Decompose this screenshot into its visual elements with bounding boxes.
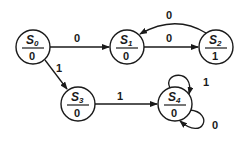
edge-label: 1 bbox=[203, 76, 209, 88]
edge-s1-s2: 0 bbox=[144, 32, 198, 47]
state-s1: S1 0 bbox=[110, 30, 144, 64]
state-output: 1 bbox=[212, 50, 218, 62]
edge-label: 1 bbox=[56, 62, 62, 74]
edge-label: 1 bbox=[117, 90, 123, 102]
state-diagram: 0 1 0 0 1 1 0 S0 0 S1 0 S2 1 bbox=[0, 0, 249, 156]
edge-label: 0 bbox=[74, 32, 80, 44]
edge-s0-s3: 1 bbox=[45, 60, 67, 89]
edge-s2-s1: 0 bbox=[140, 9, 206, 34]
edge-label: 0 bbox=[166, 32, 172, 44]
state-output: 0 bbox=[123, 50, 129, 62]
state-output: 0 bbox=[74, 107, 80, 119]
edge-s0-s1: 0 bbox=[50, 32, 109, 47]
edge-label: 0 bbox=[166, 9, 172, 21]
state-s3: S3 0 bbox=[61, 87, 95, 121]
edge-s3-s4: 1 bbox=[95, 90, 157, 104]
state-s0: S0 0 bbox=[16, 30, 50, 64]
state-output: 0 bbox=[171, 107, 177, 119]
edge-label: 0 bbox=[212, 119, 218, 131]
state-s4: S4 0 bbox=[158, 87, 192, 121]
state-output: 0 bbox=[29, 50, 35, 62]
state-s2: S2 1 bbox=[199, 30, 233, 64]
